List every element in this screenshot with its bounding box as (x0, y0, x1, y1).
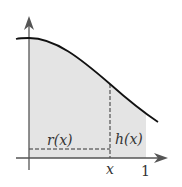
diagram-canvas: r(x) h(x) x 1 (0, 0, 182, 187)
label-r-x: r(x) (47, 132, 73, 148)
tick-label-one: 1 (141, 163, 150, 179)
tick-label-x: x (106, 161, 114, 177)
label-h-x: h(x) (115, 131, 143, 147)
